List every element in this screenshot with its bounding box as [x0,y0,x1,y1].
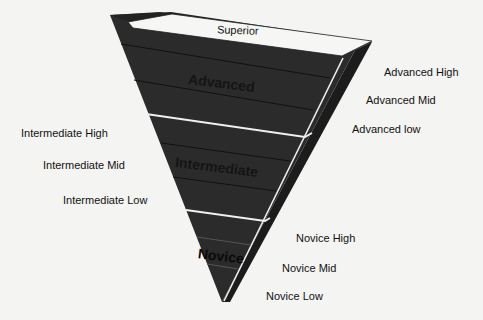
sublevel-label-novice-low: Novice Low [266,291,323,302]
sublevel-label-advanced-high: Advanced High [384,67,459,78]
sublevel-label-novice-mid: Novice Mid [282,263,336,274]
sublevel-label-advanced-mid: Advanced Mid [366,95,436,106]
sublevel-label-advanced-low: Advanced low [352,124,421,135]
superior-label: Superior [217,24,259,36]
sublevel-label-intermediate-high: Intermediate High [21,128,108,139]
proficiency-pyramid-diagram: Superior Advanced Intermediate Novice Ad… [0,0,483,320]
sublevel-label-intermediate-mid: Intermediate Mid [43,160,125,171]
sublevel-label-novice-high: Novice High [296,233,355,244]
sublevel-label-intermediate-low: Intermediate Low [63,195,147,206]
